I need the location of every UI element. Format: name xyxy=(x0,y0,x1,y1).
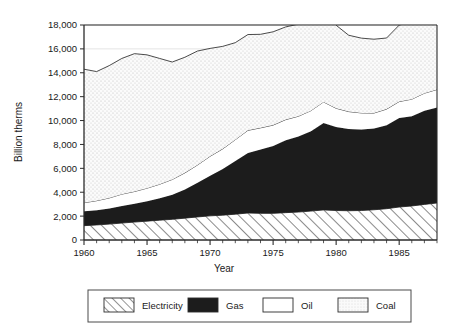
legend-swatch-oil xyxy=(263,298,293,312)
x-tick-label: 1980 xyxy=(326,247,347,258)
chart-legend: ElectricityGasOilCoal xyxy=(88,290,411,322)
y-tick-label: 10,000 xyxy=(48,115,77,126)
x-tick-label: 1970 xyxy=(199,247,220,258)
y-tick-label: 12,000 xyxy=(48,91,77,102)
y-tick-label: 18,000 xyxy=(48,19,77,30)
y-tick-label: 4,000 xyxy=(53,187,77,198)
x-tick-label: 1960 xyxy=(73,247,94,258)
legend-swatch-coal xyxy=(338,298,368,312)
y-tick-label: 0 xyxy=(72,234,77,245)
y-tick-label: 14,000 xyxy=(48,67,77,78)
legend-swatch-electricity xyxy=(104,298,134,312)
x-tick-label: 1965 xyxy=(136,247,157,258)
x-axis-title: Year xyxy=(214,263,235,274)
stacked-area-chart: 02,0004,0006,0008,00010,00012,00014,0001… xyxy=(0,0,458,334)
y-axis-title: Billion therms xyxy=(13,102,24,162)
y-tick-label: 8,000 xyxy=(53,139,77,150)
legend-label-gas: Gas xyxy=(226,300,244,311)
chart-figure: 02,0004,0006,0008,00010,00012,00014,0001… xyxy=(0,0,458,334)
y-tick-label: 16,000 xyxy=(48,43,77,54)
x-tick-label: 1975 xyxy=(263,247,284,258)
legend-label-coal: Coal xyxy=(376,300,396,311)
y-tick-label: 2,000 xyxy=(53,211,77,222)
y-tick-label: 6,000 xyxy=(53,163,77,174)
legend-swatch-gas xyxy=(188,298,218,312)
legend-label-oil: Oil xyxy=(301,300,313,311)
x-tick-label: 1985 xyxy=(389,247,410,258)
legend-label-electricity: Electricity xyxy=(142,300,183,311)
